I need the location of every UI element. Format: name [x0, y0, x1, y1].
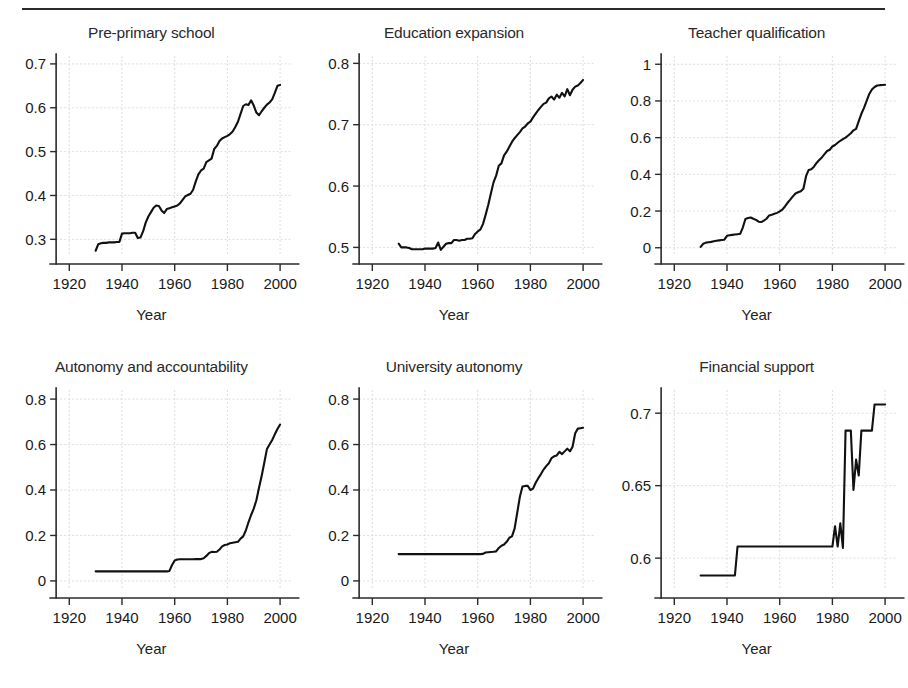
data-series-line: [701, 85, 885, 247]
x-tick-label: 1980: [816, 609, 849, 626]
line-chart-svg: 0.50.60.70.819201940196019802000: [303, 46, 606, 308]
figure-panel-grid: Pre-primary school 0.30.40.50.60.7192019…: [0, 0, 908, 688]
x-tick-label: 1980: [211, 275, 244, 292]
x-tick-label: 2000: [566, 609, 599, 626]
panel-financial-support: Financial support 0.60.650.7192019401960…: [605, 352, 908, 686]
panel-title: Autonomy and accountability: [0, 358, 303, 376]
x-tick-label: 1940: [408, 609, 441, 626]
data-series-line: [96, 425, 280, 572]
x-tick-label: 1940: [105, 609, 138, 626]
panel-education-expansion: Education expansion 0.50.60.70.819201940…: [303, 18, 606, 352]
y-tick-label: 0.65: [622, 477, 651, 494]
y-tick-label: 0.6: [631, 129, 652, 146]
y-tick-label: 0: [340, 572, 348, 589]
y-tick-label: 0.7: [631, 405, 652, 422]
x-tick-label: 1920: [658, 609, 691, 626]
x-axis-label: Year: [303, 640, 606, 657]
small-multiples-grid: Pre-primary school 0.30.40.50.60.7192019…: [0, 18, 908, 686]
data-series-line: [398, 428, 582, 554]
data-series-line: [701, 404, 885, 575]
line-chart-svg: 00.20.40.60.8119201940196019802000: [605, 46, 908, 308]
y-tick-label: 1: [643, 56, 651, 73]
y-tick-label: 0.6: [25, 436, 46, 453]
x-tick-label: 1980: [816, 275, 849, 292]
y-tick-label: 0: [643, 239, 651, 256]
x-tick-label: 2000: [263, 275, 296, 292]
panel-title: Teacher qualification: [605, 24, 908, 42]
plot-area: 0.60.650.719201940196019802000: [605, 380, 908, 642]
x-tick-label: 1940: [711, 275, 744, 292]
plot-area: 00.20.40.60.819201940196019802000: [303, 380, 606, 642]
y-tick-label: 0.4: [25, 187, 46, 204]
top-horizontal-rule: [22, 8, 885, 10]
y-tick-label: 0.4: [631, 166, 652, 183]
y-tick-label: 0.2: [25, 527, 46, 544]
y-tick-label: 0.6: [328, 436, 349, 453]
line-chart-svg: 00.20.40.60.819201940196019802000: [0, 380, 303, 642]
y-tick-label: 0.3: [25, 231, 46, 248]
y-tick-label: 0.2: [328, 527, 349, 544]
y-tick-label: 0.6: [631, 550, 652, 567]
x-tick-label: 1980: [513, 275, 546, 292]
x-tick-label: 1960: [461, 609, 494, 626]
x-tick-label: 2000: [869, 609, 902, 626]
x-tick-label: 1940: [408, 275, 441, 292]
y-tick-label: 0.4: [25, 482, 46, 499]
x-tick-label: 1960: [763, 609, 796, 626]
panel-pre-primary-school: Pre-primary school 0.30.40.50.60.7192019…: [0, 18, 303, 352]
plot-area: 0.30.40.50.60.719201940196019802000: [0, 46, 303, 308]
panel-title: University autonomy: [303, 358, 606, 376]
x-tick-label: 1940: [711, 609, 744, 626]
x-tick-label: 2000: [566, 275, 599, 292]
y-tick-label: 0.4: [328, 482, 349, 499]
y-tick-label: 0.6: [328, 178, 349, 195]
plot-area: 00.20.40.60.819201940196019802000: [0, 380, 303, 642]
x-axis-label: Year: [303, 306, 606, 323]
panel-title: Education expansion: [303, 24, 606, 42]
y-tick-label: 0.6: [25, 99, 46, 116]
data-series-line: [398, 80, 582, 250]
y-tick-label: 0.8: [631, 92, 652, 109]
x-tick-label: 1960: [763, 275, 796, 292]
y-tick-label: 0.5: [25, 143, 46, 160]
x-tick-label: 1920: [53, 609, 86, 626]
x-tick-label: 1980: [211, 609, 244, 626]
x-tick-label: 1960: [461, 275, 494, 292]
panel-title: Pre-primary school: [0, 24, 303, 42]
line-chart-svg: 0.30.40.50.60.719201940196019802000: [0, 46, 303, 308]
plot-area: 00.20.40.60.8119201940196019802000: [605, 46, 908, 308]
x-axis-label: Year: [605, 306, 908, 323]
x-tick-label: 1940: [105, 275, 138, 292]
x-tick-label: 2000: [869, 275, 902, 292]
x-axis-label: Year: [0, 640, 303, 657]
line-chart-svg: 00.20.40.60.819201940196019802000: [303, 380, 606, 642]
y-tick-label: 0.7: [25, 55, 46, 72]
panel-teacher-qualification: Teacher qualification 00.20.40.60.811920…: [605, 18, 908, 352]
panel-autonomy-and-accountability: Autonomy and accountability 00.20.40.60.…: [0, 352, 303, 686]
y-tick-label: 0.8: [25, 391, 46, 408]
line-chart-svg: 0.60.650.719201940196019802000: [605, 380, 908, 642]
x-tick-label: 1980: [513, 609, 546, 626]
x-axis-label: Year: [605, 640, 908, 657]
y-tick-label: 0.5: [328, 239, 349, 256]
y-tick-label: 0.7: [328, 116, 349, 133]
y-tick-label: 0.8: [328, 391, 349, 408]
x-tick-label: 1920: [355, 275, 388, 292]
data-series-line: [96, 85, 280, 251]
panel-university-autonomy: University autonomy 00.20.40.60.81920194…: [303, 352, 606, 686]
plot-area: 0.50.60.70.819201940196019802000: [303, 46, 606, 308]
x-tick-label: 1920: [53, 275, 86, 292]
x-tick-label: 2000: [263, 609, 296, 626]
panel-title: Financial support: [605, 358, 908, 376]
x-axis-label: Year: [0, 306, 303, 323]
y-tick-label: 0.2: [631, 203, 652, 220]
x-tick-label: 1920: [355, 609, 388, 626]
x-tick-label: 1920: [658, 275, 691, 292]
y-tick-label: 0: [38, 572, 46, 589]
x-tick-label: 1960: [158, 275, 191, 292]
x-tick-label: 1960: [158, 609, 191, 626]
y-tick-label: 0.8: [328, 55, 349, 72]
